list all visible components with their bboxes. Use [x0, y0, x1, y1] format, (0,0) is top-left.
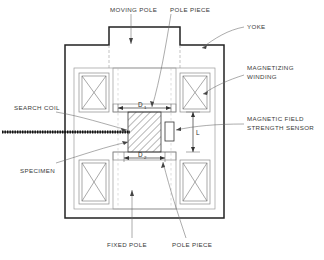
winding-coil-bottom-left [79, 160, 109, 204]
dimension-d2: D 2 [124, 151, 165, 162]
label-moving-pole: MOVING POLE [110, 6, 157, 13]
sensor-rect [165, 122, 174, 141]
leader-pole-piece-top [152, 14, 171, 107]
lower-pole-column [113, 152, 176, 209]
label-specimen: SPECIMEN [20, 167, 55, 174]
lower-pole-rect [113, 152, 176, 209]
moving-pole-group [109, 45, 180, 68]
d1-arrow-left [118, 106, 123, 110]
winding-coil-top-left [79, 73, 109, 112]
leader-sensor [176, 124, 244, 130]
d1-label: D [138, 101, 143, 108]
dimension-l: L [186, 112, 200, 152]
specimen-rect [128, 112, 161, 152]
diagram-canvas: D 1 D 2 L [0, 0, 324, 260]
d2-label: D [138, 151, 143, 158]
leader-fixed-pole-arrow [130, 190, 134, 196]
specimen-block [128, 112, 161, 152]
leader-search-coil [56, 112, 127, 130]
leader-pole-piece-bottom-arrow [161, 162, 165, 168]
label-pole-piece-bottom: POLE PIECE [172, 241, 212, 248]
magnetic-field-strength-sensor [165, 122, 174, 141]
label-magnetizing-winding-line1: MAGNETIZING [247, 64, 294, 71]
l-arrow-bottom [191, 147, 195, 152]
label-fixed-pole: FIXED POLE [107, 241, 147, 248]
leader-sensor-arrow [176, 127, 181, 131]
leader-moving-pole-arrow [129, 38, 133, 44]
d2-arrow-right [160, 156, 165, 160]
label-pole-piece-top: POLE PIECE [170, 6, 210, 13]
text-labels: MOVING POLE POLE PIECE YOKE MAGNETIZING … [14, 6, 314, 248]
label-yoke: YOKE [247, 23, 266, 30]
label-magnetizing-winding-line2: WINDING [247, 73, 277, 80]
leader-pole-piece-bottom [163, 162, 186, 238]
leader-search-coil-arrow [121, 128, 127, 132]
d1-arrow-right [166, 106, 171, 110]
d2-arrow-left [124, 156, 129, 160]
d2-subscript: 2 [144, 155, 147, 160]
label-magnetic-field-sensor-line1: MAGNETIC FIELD [247, 115, 304, 122]
label-search-coil: SEARCH COIL [14, 104, 60, 111]
l-label: L [196, 129, 200, 136]
permeameter-cross-section-diagram: D 1 D 2 L [0, 0, 324, 260]
d1-subscript: 1 [144, 105, 147, 110]
l-arrow-top [191, 112, 195, 117]
winding-coil-bottom-right [180, 160, 210, 204]
dimension-d1: D 1 [118, 101, 171, 112]
label-magnetic-field-sensor-line2: STRENGTH SENSOR [247, 124, 314, 131]
